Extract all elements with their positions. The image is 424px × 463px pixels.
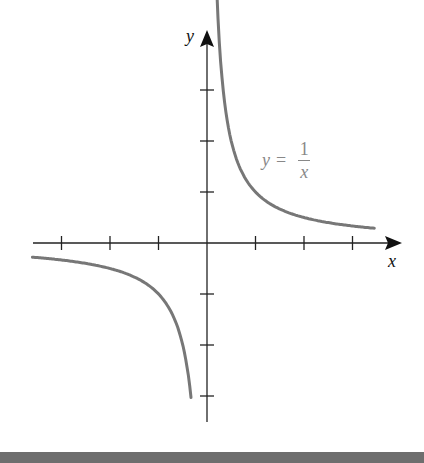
- fraction-bar: [298, 160, 310, 161]
- equation-fraction: 1 x: [298, 140, 310, 181]
- fraction-denominator: x: [300, 163, 308, 181]
- footer-band: [0, 452, 424, 463]
- fraction-numerator: 1: [300, 140, 309, 158]
- equation-equals: =: [276, 150, 286, 171]
- curve-branch-negative: [32, 257, 191, 397]
- curve-branch-positive: [217, 0, 375, 228]
- y-axis-label: y: [186, 26, 194, 47]
- equation-annotation: y = 1 x: [262, 140, 310, 181]
- equation-lhs: y: [262, 150, 270, 171]
- x-axis-label: x: [388, 251, 396, 272]
- plot-area: [0, 0, 424, 463]
